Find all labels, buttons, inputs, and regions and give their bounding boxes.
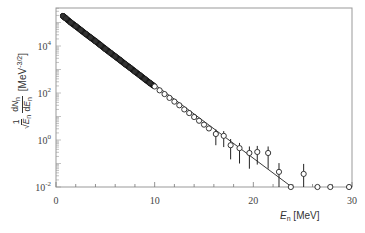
data-point [78,27,83,32]
data-point [177,103,182,108]
data-point [113,54,118,59]
data-point [187,110,192,115]
data-point [73,24,78,29]
y-axis-label: 1√En dNndEn [MeV-3/2] [11,31,33,151]
data-point [162,91,167,96]
data-point [237,146,242,151]
data-point [127,65,132,70]
data-point [201,122,206,127]
data-point [206,126,211,131]
y-tick-label: 100 [38,133,52,146]
data-point [315,184,320,189]
data-point [98,42,103,47]
x-tick-label: 10 [150,195,160,206]
data-point [157,88,162,93]
y-tick-label: 102 [38,86,52,99]
data-point [288,184,293,189]
data-point [192,114,197,119]
x-axis-label: En [MeV] [280,210,319,222]
data-point [93,39,98,44]
data-point [63,16,68,21]
data-point [328,184,333,189]
chart: 010203010-2100102104 [0,0,365,233]
data-point [137,73,142,78]
data-point [108,50,113,55]
data-point [152,84,157,89]
data-point [142,77,147,82]
data-point [255,149,260,154]
data-point [228,143,233,148]
tick-labels: 010203010-2100102104 [35,39,357,206]
data-point [122,61,127,66]
data-point [213,131,218,136]
y-tick-label: 10-2 [35,180,51,193]
data-point [221,133,226,138]
data-point [68,20,73,25]
data-point [301,171,306,176]
data-point [172,99,177,104]
data-point [132,69,137,74]
data-point [247,150,252,155]
plot-frame [56,8,352,187]
data-point [196,118,201,123]
x-tick-label: 20 [248,195,258,206]
x-tick-label: 30 [347,195,357,206]
data-point [346,184,351,189]
data-point [182,107,187,112]
data-point [83,31,88,36]
plot-border [56,8,352,187]
data-point [167,95,172,100]
data-point [147,80,152,85]
data-point [118,58,123,63]
data-points [60,13,351,189]
x-tick-label: 0 [54,195,59,206]
data-point [266,150,271,155]
y-tick-label: 104 [38,39,52,52]
data-point [276,169,281,174]
data-point [103,46,108,51]
data-point [88,35,93,40]
axis-ticks [56,8,352,187]
